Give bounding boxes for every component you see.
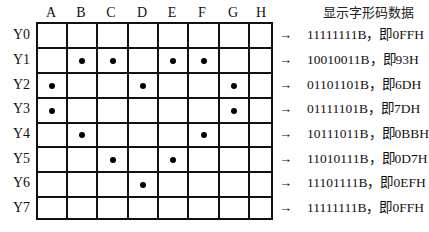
led-dot [79,58,85,64]
grid-vline [248,24,250,218]
grid-vline [127,24,129,218]
led-dot [79,132,85,138]
grid-hline [38,122,271,124]
arrow-icon: → [279,126,292,142]
arrow-icon: → [279,200,292,216]
led-dot [140,182,146,188]
row-label-y3: Y3 [0,101,30,117]
led-dot [201,58,207,64]
grid-hline [38,196,271,198]
code-y7: 11111111B，即0FFH [307,200,424,216]
arrow-icon: → [279,52,292,68]
led-dot [231,83,237,89]
header-title: 显示字形码数据 [323,5,414,21]
row-label-y5: Y5 [0,151,30,167]
grid-vline [66,24,68,218]
row-label-y6: Y6 [0,175,30,191]
grid-vline [187,24,189,218]
grid-hline [38,47,271,49]
code-y5: 11010111B，即0D7H [307,151,428,167]
arrow-icon: → [279,101,292,117]
col-label-c: C [96,5,126,21]
row-label-y7: Y7 [0,200,30,216]
code-y2: 01101101B，即6DH [307,77,421,93]
row-label-y2: Y2 [0,77,30,93]
code-y1: 10010011B，即93H [307,52,419,68]
grid-vline [157,24,159,218]
arrow-icon: → [279,77,292,93]
grid-hline [38,146,271,148]
col-label-e: E [157,5,187,21]
code-y3: 01111101B，即7DH [307,101,420,117]
arrow-icon: → [279,175,292,191]
code-y0: 11111111B，即0FFH [307,27,424,43]
dot-matrix-grid [36,22,273,220]
row-label-y4: Y4 [0,126,30,142]
row-label-y1: Y1 [0,52,30,68]
led-dot [110,157,116,163]
col-label-f: F [187,5,217,21]
led-dot [231,108,237,114]
grid-hline [38,97,271,99]
col-label-h: H [246,5,276,21]
led-dot [110,58,116,64]
grid-vline [96,24,98,218]
code-y4: 10111011B，即0BBH [307,126,429,142]
grid-hline [38,72,271,74]
grid-vline [218,24,220,218]
led-dot [49,108,55,114]
arrow-icon: → [279,27,292,43]
led-dot [201,132,207,138]
code-y6: 11101111B，即0EFH [307,175,426,191]
led-dot [170,157,176,163]
led-dot [49,83,55,89]
col-label-g: G [218,5,248,21]
row-label-y0: Y0 [0,27,30,43]
led-dot [140,83,146,89]
col-label-b: B [66,5,96,21]
led-dot [170,58,176,64]
col-label-d: D [127,5,157,21]
col-label-a: A [36,5,66,21]
arrow-icon: → [279,151,292,167]
grid-hline [38,171,271,173]
